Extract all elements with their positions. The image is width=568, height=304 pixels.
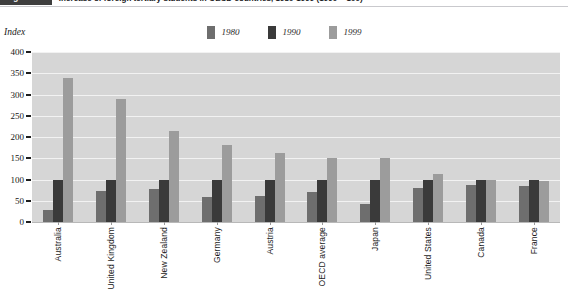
bar-group bbox=[243, 52, 296, 222]
figure-title: Increase of foreign tertiary students in… bbox=[52, 0, 363, 3]
bar[interactable] bbox=[159, 180, 169, 223]
bar[interactable] bbox=[265, 180, 275, 223]
legend-swatch-icon bbox=[207, 26, 215, 39]
bar[interactable] bbox=[63, 78, 73, 223]
bar-group bbox=[402, 52, 455, 222]
y-tick-mark bbox=[26, 51, 31, 53]
figure-container: Figure 4.2 Increase of foreign tertiary … bbox=[0, 0, 568, 304]
figure-number-tag: Figure 4.2 bbox=[0, 0, 52, 5]
bar[interactable] bbox=[360, 204, 370, 222]
x-tick-cell bbox=[349, 222, 402, 226]
bar[interactable] bbox=[476, 180, 486, 223]
x-label-cell: New Zealand bbox=[138, 227, 191, 304]
y-tick-mark bbox=[26, 221, 31, 223]
bar[interactable] bbox=[53, 180, 63, 223]
legend-entry[interactable]: 1990 bbox=[268, 26, 301, 39]
bar[interactable] bbox=[149, 189, 159, 222]
bar-group bbox=[507, 52, 560, 222]
bar[interactable] bbox=[370, 180, 380, 223]
bar[interactable] bbox=[380, 158, 390, 222]
legend-swatch-icon bbox=[268, 26, 276, 39]
y-tick-mark bbox=[26, 200, 31, 202]
legend-entry[interactable]: 1999 bbox=[329, 26, 362, 39]
x-tick-cell bbox=[454, 222, 507, 226]
x-tick-cell bbox=[190, 222, 243, 226]
x-tick-cell bbox=[402, 222, 455, 226]
bar[interactable] bbox=[327, 158, 337, 222]
x-label-cell: United States bbox=[402, 227, 455, 304]
x-tick-cell bbox=[507, 222, 560, 226]
x-tick-mark bbox=[481, 222, 482, 225]
legend-label: 1990 bbox=[283, 27, 301, 37]
x-axis-tick-marks bbox=[32, 222, 560, 226]
y-tick-label: 50 bbox=[2, 196, 24, 206]
bar[interactable] bbox=[423, 180, 433, 223]
x-axis-label: Austria bbox=[265, 227, 275, 255]
bar[interactable] bbox=[539, 181, 549, 222]
y-tick-mark bbox=[26, 157, 31, 159]
bar[interactable] bbox=[116, 99, 126, 222]
x-axis-label: Canada bbox=[476, 227, 486, 258]
x-tick-cell bbox=[32, 222, 85, 226]
x-axis-label: France bbox=[529, 227, 539, 254]
bar[interactable] bbox=[222, 145, 232, 222]
title-divider bbox=[0, 6, 568, 7]
y-tick-mark bbox=[26, 136, 31, 138]
bar[interactable] bbox=[212, 180, 222, 223]
y-tick-label: 350 bbox=[2, 68, 24, 78]
bar[interactable] bbox=[106, 180, 116, 223]
bar[interactable] bbox=[43, 210, 53, 222]
bar[interactable] bbox=[529, 180, 539, 223]
legend-label: 1980 bbox=[222, 27, 240, 37]
x-tick-cell bbox=[138, 222, 191, 226]
plot-area bbox=[32, 52, 560, 222]
x-label-cell: Germany bbox=[190, 227, 243, 304]
bar[interactable] bbox=[413, 188, 423, 222]
bar[interactable] bbox=[433, 174, 443, 222]
x-label-cell: United Kingdom bbox=[85, 227, 138, 304]
y-tick-mark bbox=[26, 94, 31, 96]
x-tick-mark bbox=[58, 222, 59, 225]
x-axis-label: Japan bbox=[370, 227, 380, 251]
bar[interactable] bbox=[317, 180, 327, 223]
x-tick-cell bbox=[296, 222, 349, 226]
bar-group bbox=[349, 52, 402, 222]
x-axis-label: Germany bbox=[212, 227, 222, 263]
bar[interactable] bbox=[275, 153, 285, 222]
bar[interactable] bbox=[519, 186, 529, 222]
y-tick-label: 150 bbox=[2, 153, 24, 163]
x-tick-mark bbox=[270, 222, 271, 225]
x-label-cell: Australia bbox=[32, 227, 85, 304]
y-tick-label: 300 bbox=[2, 90, 24, 100]
y-tick-mark bbox=[26, 72, 31, 74]
x-tick-mark bbox=[534, 222, 535, 225]
x-axis-labels: AustraliaUnited KingdomNew ZealandGerman… bbox=[32, 227, 560, 304]
x-tick-cell bbox=[243, 222, 296, 226]
bar-group bbox=[138, 52, 191, 222]
bar-group bbox=[32, 52, 85, 222]
bar[interactable] bbox=[202, 197, 212, 223]
y-tick-label: 200 bbox=[2, 132, 24, 142]
bar[interactable] bbox=[307, 192, 317, 222]
x-tick-mark bbox=[428, 222, 429, 225]
x-tick-mark bbox=[217, 222, 218, 225]
y-axis-title: Index bbox=[4, 27, 25, 37]
bar[interactable] bbox=[486, 180, 496, 223]
bar[interactable] bbox=[96, 191, 106, 222]
bar[interactable] bbox=[255, 196, 265, 222]
bar[interactable] bbox=[169, 131, 179, 222]
x-label-cell: OECD average bbox=[296, 227, 349, 304]
x-label-cell: France bbox=[507, 227, 560, 304]
x-label-cell: Japan bbox=[349, 227, 402, 304]
bar[interactable] bbox=[466, 185, 476, 222]
x-tick-mark bbox=[322, 222, 323, 225]
y-tick-label: 100 bbox=[2, 175, 24, 185]
y-tick-mark bbox=[26, 115, 31, 117]
y-tick-mark bbox=[26, 179, 31, 181]
chart-legend: 198019901999 bbox=[0, 23, 568, 41]
x-label-cell: Austria bbox=[243, 227, 296, 304]
y-tick-label: 250 bbox=[2, 111, 24, 121]
bar-groups bbox=[32, 52, 560, 222]
legend-entry[interactable]: 1980 bbox=[207, 26, 240, 39]
bar-group bbox=[454, 52, 507, 222]
